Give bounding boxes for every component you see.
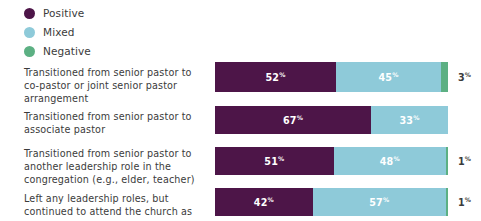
bar-segment-mixed: 57% — [313, 188, 446, 216]
chart-row-label: Left any leadership roles, but continued… — [24, 192, 206, 218]
bar-segment-value: 57% — [369, 196, 389, 208]
chart-legend: PositiveMixedNegative — [24, 5, 204, 62]
legend-item-negative: Negative — [24, 43, 204, 59]
legend-item-mixed: Mixed — [24, 24, 204, 40]
legend-item-positive: Positive — [24, 5, 204, 21]
bar-segment-positive: 42% — [215, 188, 313, 216]
chart-bar-track: 42%57% — [215, 188, 448, 216]
legend-item-label: Mixed — [43, 26, 75, 38]
bar-segment-negative — [446, 188, 448, 216]
chart-row: 1%Left any leadership roles, but continu… — [0, 62, 481, 216]
bar-segment-value: 42% — [254, 196, 274, 208]
legend-item-label: Positive — [43, 7, 84, 19]
circle-swatch-icon — [24, 8, 35, 19]
circle-swatch-icon — [24, 27, 35, 38]
circle-swatch-icon — [24, 46, 35, 57]
bar-segment-value-outside: 1% — [458, 196, 471, 208]
stacked-bar-chart: PositiveMixedNegative 3%Transitioned fro… — [0, 0, 481, 221]
legend-item-label: Negative — [43, 45, 91, 57]
